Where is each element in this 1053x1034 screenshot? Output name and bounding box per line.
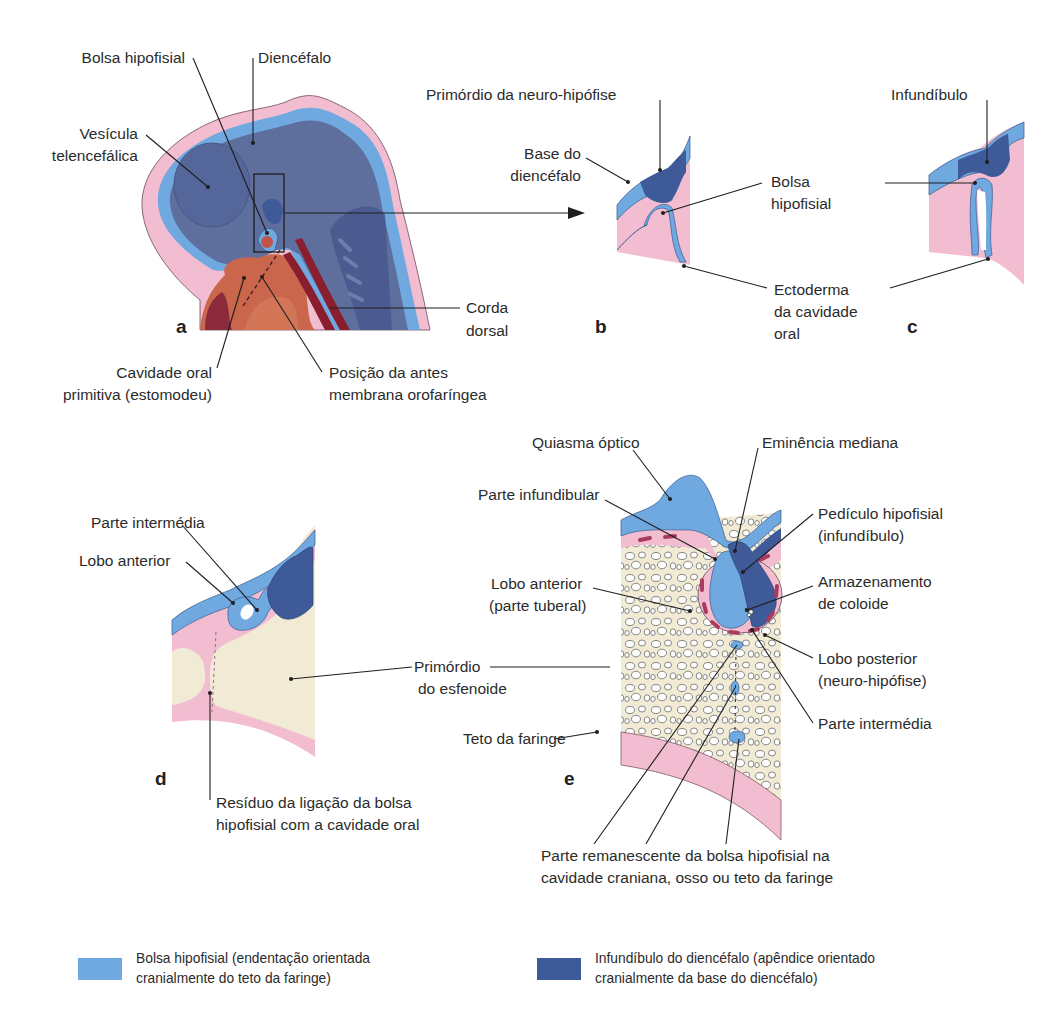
legend-text: Infundíbulo do diencéfalo (apêndice orie… [595,948,875,988]
label-lobo-anterior-d: Lobo anterior [79,552,170,569]
label-vesicula-l2: telencefálica [52,147,139,164]
label-parte-intermedia-e: Parte intermédia [818,715,932,732]
label-posicao-l1: Posição da antes [329,364,448,381]
panel-e: Quiasma óptico Eminência mediana Parte i… [463,434,943,886]
panel-d: Parte intermédia Lobo anterior Primórdio… [79,514,507,833]
label-bolsa-hipofisial: Bolsa hipofisial [82,49,185,66]
legend-item-bolsa-hipofisial: Bolsa hipofisial (endentação orientada c… [78,948,390,988]
panel-letter-e: e [564,768,575,789]
label-armazenamento-l1: Armazenamento [818,573,932,590]
label-primordio-esfenoide-l2: do esfenoide [418,680,507,697]
label-ectoderma-l2: da cavidade [774,303,858,320]
panel-c: Infundíbulo c [885,86,1024,337]
label-remanescente-l2: cavidade craniana, osso ou teto da farin… [541,869,833,886]
label-posicao-l2: membrana orofaríngea [329,386,487,403]
label-quiasma-optico: Quiasma óptico [532,434,640,451]
label-cavidade-l1: Cavidade oral [116,364,212,381]
label-lobo-anterior-e-l1: Lobo anterior [491,575,582,592]
label-remanescente-l1: Parte remanescente da bolsa hipofisial n… [541,847,830,864]
label-ectoderma-l3: oral [774,325,800,342]
label-diencefalo: Diencéfalo [258,49,331,66]
label-primordio-neuro-hipofise: Primórdio da neuro-hipófise [426,86,616,103]
label-infundibulo: Infundíbulo [891,86,968,103]
label-armazenamento-l2: de coloide [818,595,889,612]
panel-letter-d: d [155,768,167,789]
label-residuo-l1: Resíduo da ligação da bolsa [216,794,412,811]
label-parte-infundibular: Parte infundibular [478,486,600,503]
legend-item-infundibulo: Infundíbulo do diencéfalo (apêndice orie… [537,948,899,988]
label-bolsa-b-l2: hipofisial [771,195,831,212]
label-base-l1: Base do [524,145,581,162]
label-lobo-anterior-e-l2: (parte tuberal) [489,597,586,614]
panel-letter-a: a [176,316,187,337]
legend: Bolsa hipofisial (endentação orientada c… [0,948,1053,1008]
label-eminencia-mediana: Eminência mediana [762,434,899,451]
panel-letter-c: c [907,316,918,337]
label-vesicula-l1: Vesícula [79,125,138,142]
legend-text: Bolsa hipofisial (endentação orientada c… [136,948,370,988]
label-lobo-posterior-l2: (neuro-hipófise) [818,672,927,689]
label-ectoderma-l1: Ectoderma [774,281,849,298]
pituitary-development-figure: Bolsa hipofisial Diencéfalo Vesícula tel… [0,0,1053,1034]
label-pediculo-l2: (infundíbulo) [818,527,904,544]
label-pediculo-l1: Pedículo hipofisial [818,505,943,522]
label-lobo-posterior-l1: Lobo posterior [818,650,917,667]
legend-swatch-light-blue [78,958,122,980]
label-teto-faringe: Teto da faringe [463,730,566,747]
label-base-l2: diencéfalo [510,167,581,184]
label-corda-l1: Corda [466,299,509,316]
label-bolsa-b-l1: Bolsa [771,173,810,190]
label-primordio-esfenoide-l1: Primórdio [414,658,480,675]
panel-letter-b: b [595,316,607,337]
label-corda-l2: dorsal [466,322,508,339]
label-parte-intermedia-d: Parte intermédia [91,514,205,531]
legend-swatch-dark-blue [537,958,581,980]
label-cavidade-l2: primitiva (estomodeu) [63,386,212,403]
label-residuo-l2: hipofisial com a cavidade oral [216,816,419,833]
